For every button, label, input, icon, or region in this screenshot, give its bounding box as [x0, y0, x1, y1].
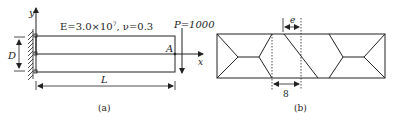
panel-a: y x E=3.0×107, ν=0.3 P=1000 A D L (a) — [7, 7, 215, 113]
spacing-label: 8 — [283, 89, 289, 99]
length-label: L — [100, 74, 108, 85]
mesh-right-elements — [329, 34, 385, 78]
fixed-support-wall — [28, 29, 33, 80]
figure: y x E=3.0×107, ν=0.3 P=1000 A D L (a) — [0, 0, 395, 123]
distortion-label: e — [290, 15, 295, 25]
y-axis-label: y — [28, 7, 35, 18]
x-axis-label: x — [198, 57, 203, 67]
point-a-marker — [174, 53, 177, 56]
reference-dotted-lines — [272, 18, 301, 90]
mesh-left-elements — [217, 34, 272, 78]
caption-b: (b) — [294, 103, 307, 113]
depth-label: D — [7, 50, 16, 61]
panel-b — [217, 18, 385, 90]
material-label: E=3.0×107, ν=0.3 — [60, 20, 153, 32]
mesh-middle-elements — [284, 34, 318, 78]
point-a-label: A — [165, 43, 173, 54]
caption-a: (a) — [98, 103, 110, 113]
load-label: P=1000 — [173, 19, 215, 30]
